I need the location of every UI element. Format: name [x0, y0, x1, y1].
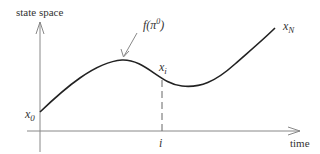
trajectory-curve — [40, 28, 275, 112]
curve-label-close: ) — [159, 18, 164, 32]
point-start-label: x0 — [24, 107, 35, 123]
point-i-label: xi — [158, 60, 167, 76]
y-axis-label: state space — [16, 6, 63, 18]
state-space-diagram: state space time f(π0) x0 xi xN i — [0, 0, 320, 154]
point-end-label: xN — [282, 19, 295, 35]
x-axis-label: time — [290, 137, 310, 149]
curve-pointer-arrow — [124, 33, 137, 56]
point-end-sub: N — [287, 25, 295, 35]
curve-label: f(π0) — [143, 17, 164, 32]
point-start-sub: 0 — [30, 113, 35, 123]
x-tick-label-i: i — [159, 136, 162, 150]
point-i-sub: i — [164, 66, 167, 76]
